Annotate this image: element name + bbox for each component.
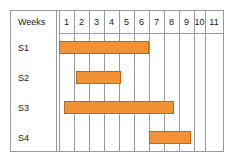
week-header-8: 8: [164, 11, 179, 33]
task-label-s1: S1: [11, 33, 56, 63]
week-header-7: 7: [149, 11, 164, 33]
gantt-bar-s1: [59, 41, 149, 54]
task-label-column: Weeks S1 S2 S3 S4: [11, 11, 56, 151]
week-header-10: 10: [194, 11, 205, 33]
header-underline: [59, 33, 223, 34]
task-label-s2: S2: [11, 63, 56, 93]
week-header-11: 11: [205, 11, 223, 33]
label-grid-divider-outer: [56, 11, 57, 151]
gantt-table-frame: Weeks S1 S2 S3 S4 1 2 3 4: [10, 10, 224, 152]
week-header-3: 3: [89, 11, 104, 33]
gantt-bar-s3: [64, 101, 174, 114]
gantt-bar-s2: [76, 71, 121, 84]
corner-header-weeks: Weeks: [11, 11, 56, 33]
week-header-5: 5: [119, 11, 134, 33]
task-label-s4: S4: [11, 123, 56, 153]
week-header-1: 1: [59, 11, 74, 33]
week-header-4: 4: [104, 11, 119, 33]
week-header-9: 9: [179, 11, 194, 33]
week-header-6: 6: [134, 11, 149, 33]
week-grid: 1 2 3 4 5 6 7 8 9 10 11: [59, 11, 223, 151]
gantt-bar-s4: [149, 131, 191, 144]
task-label-s3: S3: [11, 93, 56, 123]
gantt-chart: Weeks S1 S2 S3 S4 1 2 3 4: [0, 0, 234, 163]
week-header-2: 2: [74, 11, 89, 33]
